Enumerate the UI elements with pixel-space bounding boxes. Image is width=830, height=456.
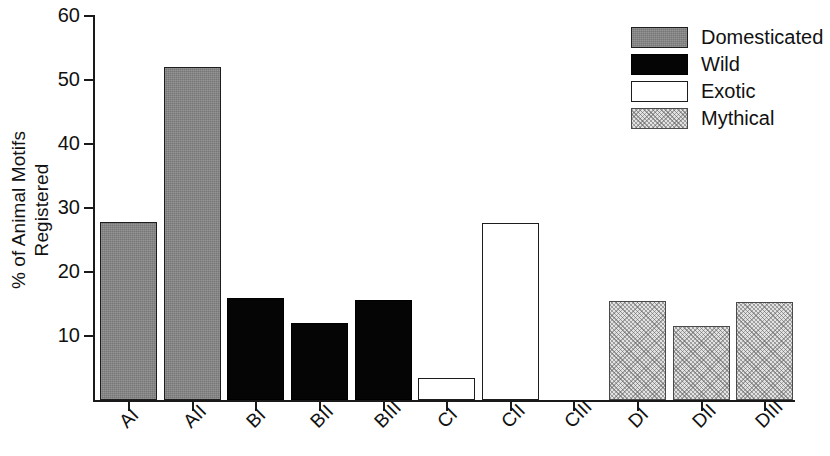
y-axis-tick-label: 20 <box>58 260 80 283</box>
y-axis-tick: 20 <box>84 271 93 273</box>
x-axis-tick-label-bii: BII <box>306 401 338 433</box>
y-axis-title: % of Animal Motifs Registered <box>0 0 60 420</box>
bar-biii <box>355 300 412 400</box>
x-axis-tick-label-bi: BI <box>242 404 270 432</box>
y-axis-tick-label: 10 <box>58 324 80 347</box>
y-axis-tick: 50 <box>84 79 93 81</box>
y-axis-tick: 60 <box>84 15 93 17</box>
x-axis-tick-label-di: DI <box>624 404 653 433</box>
bar-diii <box>736 302 793 400</box>
bar-di <box>609 301 666 400</box>
x-axis-tick-label-aii: AII <box>179 401 211 433</box>
y-axis-tick-label: 40 <box>58 132 80 155</box>
legend-swatch-mythical <box>631 108 688 129</box>
bar-ci <box>418 378 475 400</box>
legend-item-mythical: Mythical <box>631 105 830 132</box>
x-axis-tick-label-biii: BIII <box>370 397 406 433</box>
bar-dii <box>673 326 730 400</box>
bar-cii <box>482 223 539 400</box>
legend-item-wild: Wild <box>631 51 830 78</box>
y-axis-tick-label: 60 <box>58 4 80 27</box>
x-axis-tick-label-ai: AI <box>115 404 143 432</box>
x-axis-tick-label-cii: CII <box>497 400 530 433</box>
legend-label-mythical: Mythical <box>701 107 774 130</box>
legend-label-exotic: Exotic <box>701 80 755 103</box>
bar-ai <box>100 222 157 400</box>
y-axis-title-line-1: % of Animal Motifs <box>7 131 30 289</box>
x-axis-tick-label-ci: CI <box>433 404 462 433</box>
legend-label-domesticated: Domesticated <box>701 26 823 49</box>
legend-swatch-wild <box>631 54 688 75</box>
y-axis-tick-label: 30 <box>58 196 80 219</box>
legend-swatch-exotic <box>631 81 688 102</box>
legend: DomesticatedWildExoticMythical <box>631 24 830 132</box>
legend-item-exotic: Exotic <box>631 78 830 105</box>
y-axis-tick: 10 <box>84 335 93 337</box>
x-axis-line <box>93 400 795 402</box>
y-axis-tick: 40 <box>84 143 93 145</box>
legend-item-domesticated: Domesticated <box>631 24 830 51</box>
y-axis-title-line-2: Registered <box>30 131 53 289</box>
legend-label-wild: Wild <box>701 53 740 76</box>
x-axis-tick-label-dii: DII <box>688 400 721 433</box>
y-axis-line <box>93 15 95 401</box>
bar-bii <box>291 323 348 400</box>
bar-bi <box>227 298 284 400</box>
bar-chart-figure: % of Animal Motifs Registered 1020304050… <box>0 0 830 456</box>
legend-swatch-domesticated <box>631 27 688 48</box>
y-axis-tick: 30 <box>84 207 93 209</box>
y-axis-tick-label: 50 <box>58 68 80 91</box>
bar-aii <box>164 67 221 400</box>
